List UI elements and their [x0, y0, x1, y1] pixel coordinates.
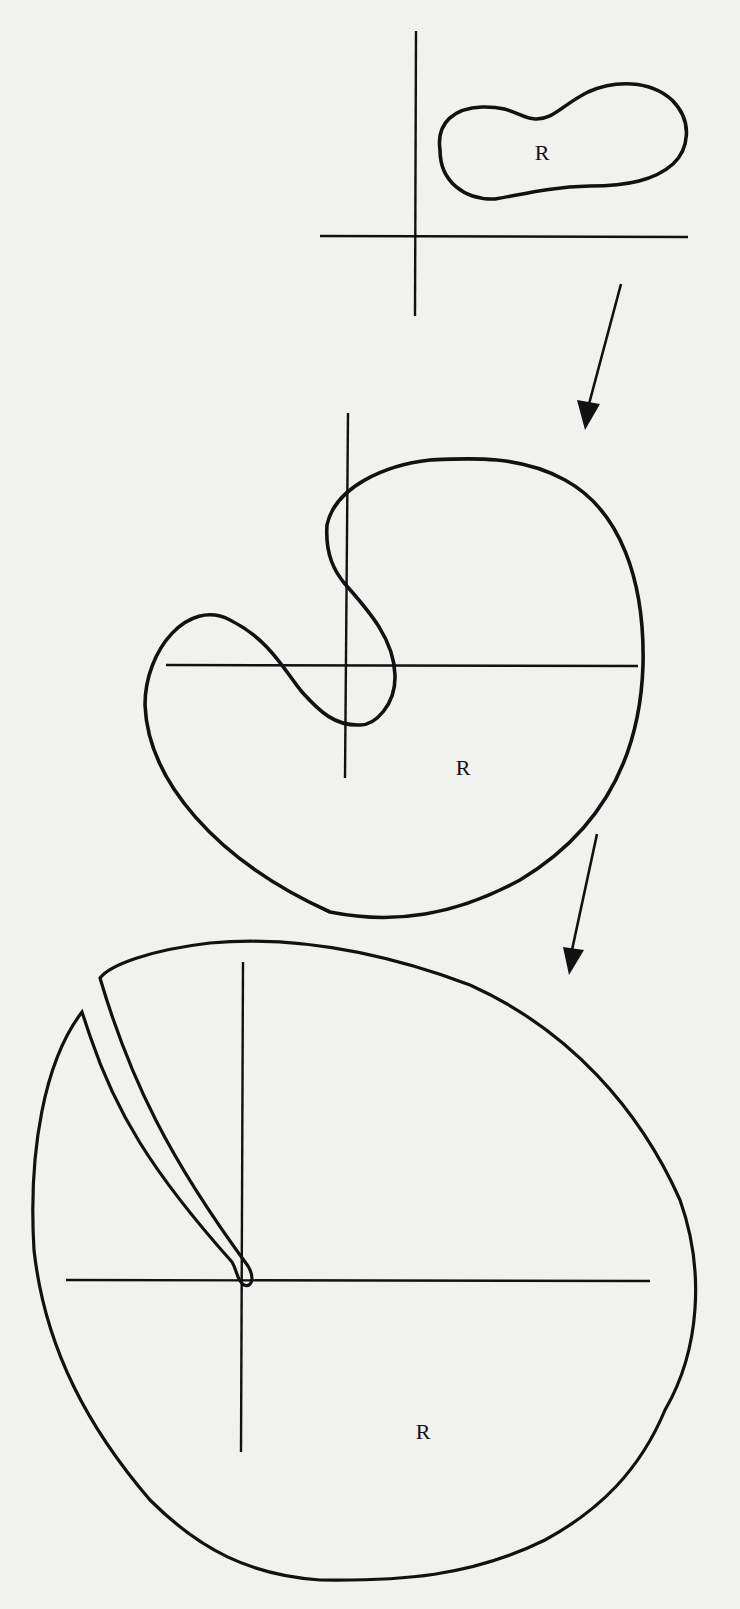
- arrow-stage-1-to-2: [577, 284, 621, 430]
- arrow-down-left-icon: [563, 947, 584, 975]
- arrow-down-left-icon: [577, 400, 600, 430]
- stage-3-region-boundary: [33, 941, 696, 1580]
- stage-3-diagram: R: [33, 941, 696, 1580]
- stage-3-x-axis: [66, 1280, 650, 1281]
- arrow-stage-2-to-3: [563, 834, 597, 975]
- figure-canvas: R R R: [0, 0, 740, 1609]
- stage-3-y-axis: [241, 962, 243, 1452]
- stage-2-region-boundary: [145, 459, 643, 918]
- stage-1-x-axis: [320, 236, 688, 237]
- stage-1-region-boundary: [439, 84, 686, 199]
- arrow-1-shaft: [589, 284, 621, 404]
- stage-2-diagram: R: [145, 413, 643, 917]
- stage-2-x-axis: [166, 665, 638, 666]
- arrow-2-shaft: [572, 834, 597, 950]
- stage-3-region-label: R: [416, 1419, 431, 1444]
- stage-2-region-label: R: [456, 755, 471, 780]
- stage-1-region-label: R: [535, 140, 550, 165]
- stage-1-y-axis: [415, 31, 416, 316]
- stage-1-diagram: R: [320, 31, 688, 316]
